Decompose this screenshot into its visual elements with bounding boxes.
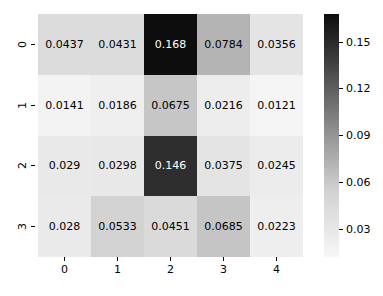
colorbar-tick: 0.15 xyxy=(339,36,371,48)
y-axis-tick-label-1: 1 xyxy=(17,102,28,109)
y-axis-tick-label-2: 2 xyxy=(17,162,28,169)
heatmap-cell: 0.0216 xyxy=(197,75,250,136)
heatmap-cell: 0.146 xyxy=(144,136,197,197)
x-axis-tick-label-2: 2 xyxy=(167,264,174,275)
colorbar-tick: 0.06 xyxy=(339,176,371,188)
x-axis-tick-label-0: 0 xyxy=(61,264,68,275)
heatmap-cell-value: 0.0685 xyxy=(204,221,243,232)
colorbar-tick-label: 0.06 xyxy=(346,177,371,188)
colorbar-tick-mark-icon xyxy=(339,42,343,43)
heatmap-cell: 0.0437 xyxy=(38,14,91,75)
y-axis-tick-mark-icon xyxy=(31,226,35,227)
colorbar-tick: 0.12 xyxy=(339,83,371,95)
x-axis-tick-mark-icon xyxy=(170,257,171,261)
x-axis-tick-mark-icon xyxy=(276,257,277,261)
y-axis-tick-label-3: 3 xyxy=(17,223,28,230)
x-axis-tick-4: 4 xyxy=(250,257,303,287)
y-axis-tick-mark-icon xyxy=(31,105,35,106)
x-axis-tick-label-1: 1 xyxy=(114,264,121,275)
y-axis-tick-label-0: 0 xyxy=(17,41,28,48)
heatmap-cell-value: 0.0437 xyxy=(45,39,84,50)
x-axis-tick-label-4: 4 xyxy=(273,264,280,275)
heatmap-figure: 0 1 2 3 0.04370.04310.1680.07840.03560.0… xyxy=(0,0,383,296)
y-axis-tick-1: 1 xyxy=(0,75,38,136)
y-axis-tick-2: 2 xyxy=(0,136,38,197)
heatmap-cell: 0.0784 xyxy=(197,14,250,75)
heatmap-cell-value: 0.0431 xyxy=(98,39,137,50)
x-axis-tick-1: 1 xyxy=(91,257,144,287)
x-axis-tick-2: 2 xyxy=(144,257,197,287)
colorbar-tick-label: 0.03 xyxy=(346,224,371,235)
heatmap-cell: 0.0298 xyxy=(91,136,144,197)
x-axis-tick-mark-icon xyxy=(64,257,65,261)
heatmap-cell-value: 0.0298 xyxy=(98,160,137,171)
heatmap-cell: 0.168 xyxy=(144,14,197,75)
x-axis-tick-0: 0 xyxy=(38,257,91,287)
heatmap-cell-value: 0.0533 xyxy=(98,221,137,232)
y-axis-tick-mark-icon xyxy=(31,165,35,166)
heatmap-cell: 0.0533 xyxy=(91,196,144,257)
heatmap-cell: 0.0685 xyxy=(197,196,250,257)
heatmap-cell-value: 0.0245 xyxy=(257,160,296,171)
heatmap-cell: 0.0245 xyxy=(250,136,303,197)
heatmap-plot-area: 0.04370.04310.1680.07840.03560.01410.018… xyxy=(38,14,303,257)
colorbar-tick-mark-icon xyxy=(339,229,343,230)
x-axis-tick-3: 3 xyxy=(197,257,250,287)
heatmap-cell-value: 0.0121 xyxy=(257,100,296,111)
heatmap-cell-value: 0.0375 xyxy=(204,160,243,171)
y-axis-tick-0: 0 xyxy=(0,14,38,75)
heatmap-cell: 0.0186 xyxy=(91,75,144,136)
colorbar-tick-label: 0.15 xyxy=(346,37,371,48)
y-axis-tick-labels: 0 1 2 3 xyxy=(0,14,38,257)
colorbar-tick-labels: 0.150.120.090.060.03 xyxy=(339,14,383,257)
heatmap-cell-value: 0.0141 xyxy=(45,100,84,111)
heatmap-cell-value: 0.146 xyxy=(155,160,187,171)
colorbar: 0.150.120.090.060.03 xyxy=(324,14,339,257)
heatmap-cell-value: 0.0186 xyxy=(98,100,137,111)
heatmap-cell-value: 0.0223 xyxy=(257,221,296,232)
colorbar-tick-mark-icon xyxy=(339,88,343,89)
colorbar-gradient xyxy=(324,14,339,257)
y-axis-tick-3: 3 xyxy=(0,196,38,257)
x-axis-tick-label-3: 3 xyxy=(220,264,227,275)
colorbar-tick-mark-icon xyxy=(339,182,343,183)
heatmap-cell-value: 0.028 xyxy=(49,221,81,232)
x-axis-tick-mark-icon xyxy=(223,257,224,261)
heatmap-cell-value: 0.168 xyxy=(155,39,187,50)
heatmap-cell-value: 0.0784 xyxy=(204,39,243,50)
x-axis-tick-labels: 0 1 2 3 4 xyxy=(38,257,303,287)
y-axis-tick-mark-icon xyxy=(31,44,35,45)
heatmap-cell-value: 0.0356 xyxy=(257,39,296,50)
heatmap-cell: 0.0356 xyxy=(250,14,303,75)
heatmap-cell: 0.0431 xyxy=(91,14,144,75)
heatmap-cell: 0.0223 xyxy=(250,196,303,257)
colorbar-tick: 0.03 xyxy=(339,223,371,235)
colorbar-tick: 0.09 xyxy=(339,130,371,142)
colorbar-tick-label: 0.09 xyxy=(346,130,371,141)
heatmap-cell-value: 0.0216 xyxy=(204,100,243,111)
colorbar-tick-label: 0.12 xyxy=(346,83,371,94)
heatmap-cell: 0.0451 xyxy=(144,196,197,257)
heatmap-cell: 0.0141 xyxy=(38,75,91,136)
heatmap-cell: 0.0121 xyxy=(250,75,303,136)
heatmap-cell-grid: 0.04370.04310.1680.07840.03560.01410.018… xyxy=(38,14,303,257)
x-axis-tick-mark-icon xyxy=(117,257,118,261)
heatmap-cell: 0.029 xyxy=(38,136,91,197)
heatmap-cell: 0.0375 xyxy=(197,136,250,197)
heatmap-cell: 0.028 xyxy=(38,196,91,257)
heatmap-cell-value: 0.0675 xyxy=(151,100,190,111)
heatmap-cell-value: 0.029 xyxy=(49,160,81,171)
colorbar-tick-mark-icon xyxy=(339,135,343,136)
heatmap-cell-value: 0.0451 xyxy=(151,221,190,232)
heatmap-cell: 0.0675 xyxy=(144,75,197,136)
